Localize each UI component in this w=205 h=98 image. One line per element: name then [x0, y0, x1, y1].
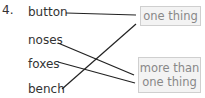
line-foxes-to-more-than-one-thing [58, 62, 135, 83]
line-bench-to-one-thing [62, 24, 136, 89]
line-button-to-one-thing [66, 13, 136, 15]
connection-lines [0, 0, 205, 98]
